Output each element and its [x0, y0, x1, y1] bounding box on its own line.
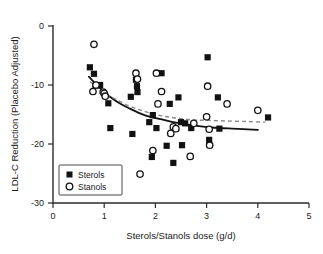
data-point-sterols — [107, 125, 113, 131]
data-point-stanols — [191, 120, 197, 126]
legend-label-sterols: Sterols — [78, 170, 104, 180]
data-point-sterols — [134, 83, 140, 89]
data-point-stanols — [150, 147, 156, 153]
x-axis-title: Sterols/Stanols dose (g/d) — [126, 230, 235, 241]
data-point-stanols — [158, 88, 164, 94]
data-point-sterols — [215, 94, 221, 100]
data-point-stanols — [102, 93, 108, 99]
x-tick-label: 0 — [50, 211, 55, 221]
data-point-sterols — [170, 160, 176, 166]
x-tick-label-group: 012345 — [50, 211, 311, 221]
data-point-sterols — [182, 120, 188, 126]
data-point-stanols — [155, 101, 161, 107]
y-tick-group — [48, 26, 53, 203]
data-point-stanols — [153, 70, 159, 76]
x-tick-label: 3 — [204, 211, 209, 221]
legend-marker-sterols — [67, 172, 73, 178]
data-point-sterols — [105, 100, 111, 106]
data-point-sterols — [205, 54, 211, 60]
data-point-sterols — [175, 94, 181, 100]
scatter-plot: 0-10-20-30 012345 Sterols Stanols Sterol… — [0, 0, 323, 254]
data-point-stanols — [255, 107, 261, 113]
data-point-stanols — [93, 82, 99, 88]
x-tick-label: 5 — [306, 211, 311, 221]
figure-container: 0-10-20-30 012345 Sterols Stanols Sterol… — [0, 0, 323, 254]
data-point-stanols — [206, 126, 212, 132]
data-point-stanols — [173, 125, 179, 131]
x-tick-label: 4 — [255, 211, 260, 221]
data-point-stanols — [91, 41, 97, 47]
data-point-stanols — [203, 114, 209, 120]
data-point-stanols — [134, 76, 140, 82]
data-point-stanols — [187, 153, 193, 159]
sterols-fit-line — [89, 77, 258, 130]
data-point-sterols — [150, 112, 156, 118]
fit-line-layer — [89, 77, 266, 130]
data-point-sterols — [179, 142, 185, 148]
legend: Sterols Stanols — [59, 165, 122, 195]
x-tick-label: 2 — [153, 211, 158, 221]
data-point-sterols — [265, 114, 271, 120]
data-point-sterols — [164, 143, 170, 149]
data-point-sterols — [167, 101, 173, 107]
data-point-stanols — [137, 171, 143, 177]
x-axis: 012345 — [50, 203, 311, 221]
data-point-sterols — [216, 126, 222, 132]
data-point-sterols — [153, 125, 159, 131]
data-point-stanols — [204, 83, 210, 89]
legend-marker-stanols — [66, 183, 73, 190]
y-tick-label-group: 0-10-20-30 — [31, 21, 44, 208]
data-point-sterols — [87, 64, 93, 70]
data-point-sterols — [149, 154, 155, 160]
data-point-stanols — [206, 142, 212, 148]
data-point-stanols — [224, 101, 230, 107]
data-point-sterols — [146, 119, 152, 125]
y-tick-label: 0 — [39, 21, 44, 31]
x-tick-label: 1 — [102, 211, 107, 221]
data-point-sterols — [129, 131, 135, 137]
legend-label-stanols: Stanols — [78, 182, 106, 192]
data-point-sterols — [128, 94, 134, 100]
y-tick-label: -10 — [31, 80, 44, 90]
data-point-layer — [87, 41, 271, 177]
y-tick-label: -20 — [31, 139, 44, 149]
data-point-sterols — [134, 89, 140, 95]
y-axis: 0-10-20-30 — [31, 21, 53, 208]
x-tick-group — [53, 203, 309, 208]
y-axis-title: LDL-C Reduction (Placebo Adjusted) — [9, 36, 20, 191]
data-point-stanols — [90, 88, 96, 94]
y-tick-label: -30 — [31, 198, 44, 208]
data-point-sterols — [91, 71, 97, 77]
